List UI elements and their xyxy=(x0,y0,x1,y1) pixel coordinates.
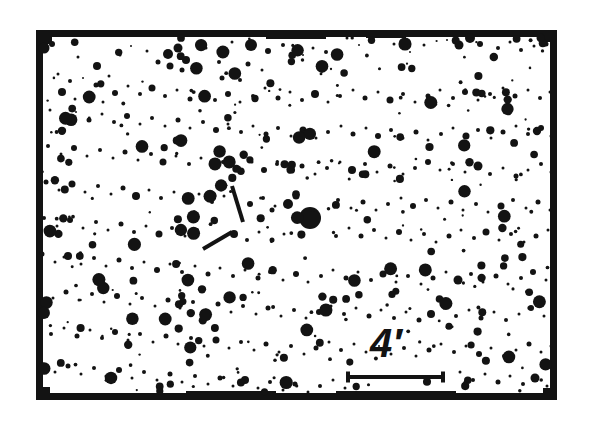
star-point xyxy=(462,249,466,253)
star-point xyxy=(420,283,423,286)
star-point xyxy=(342,295,350,303)
star-point xyxy=(291,44,294,47)
star-point xyxy=(46,144,50,148)
star-point xyxy=(237,379,245,387)
star-point xyxy=(189,89,193,93)
star-point xyxy=(395,281,398,284)
star-point xyxy=(327,207,331,211)
star-point xyxy=(501,254,509,262)
star-point xyxy=(172,260,180,268)
star-point xyxy=(173,191,176,194)
star-point xyxy=(211,324,219,332)
star-point xyxy=(280,315,283,318)
star-point xyxy=(425,159,431,165)
star-point xyxy=(439,89,442,92)
star-point xyxy=(65,159,72,166)
star-point xyxy=(227,123,230,126)
star-point xyxy=(424,198,428,202)
star-point xyxy=(547,229,550,232)
star-point xyxy=(415,355,418,358)
star-point xyxy=(77,56,80,59)
star-point xyxy=(149,85,156,92)
star-point xyxy=(494,274,499,279)
star-point xyxy=(465,158,473,166)
star-point xyxy=(274,205,277,208)
star-point xyxy=(406,63,408,65)
star-point xyxy=(318,384,322,388)
star-point xyxy=(217,60,221,64)
star-point xyxy=(438,319,441,322)
star-point xyxy=(546,385,549,388)
star-point xyxy=(514,174,519,179)
star-point xyxy=(62,255,65,258)
star-point xyxy=(463,56,466,59)
star-point xyxy=(105,378,109,382)
star-point xyxy=(295,384,298,387)
star-point xyxy=(424,96,437,109)
star-point xyxy=(92,273,105,286)
star-point xyxy=(471,378,475,382)
star-point xyxy=(534,234,539,239)
star-point xyxy=(314,335,317,338)
star-point xyxy=(204,190,217,203)
star-point xyxy=(509,41,512,44)
star-point xyxy=(331,48,344,61)
star-point xyxy=(75,111,77,113)
star-point xyxy=(82,77,84,79)
star-point xyxy=(251,95,258,102)
star-point xyxy=(103,301,106,304)
star-point xyxy=(138,92,142,96)
star-point xyxy=(115,49,122,56)
star-point xyxy=(519,276,523,280)
star-point xyxy=(66,364,71,369)
star-point xyxy=(187,210,200,223)
star-point xyxy=(192,385,195,388)
star-point xyxy=(213,337,220,344)
star-point xyxy=(58,127,66,135)
star-point xyxy=(549,91,552,94)
star-point xyxy=(57,359,65,367)
star-point xyxy=(175,134,188,147)
star-point xyxy=(129,363,133,367)
star-point xyxy=(213,127,219,133)
star-point xyxy=(353,383,360,390)
star-point xyxy=(524,118,526,120)
star-point xyxy=(474,162,483,171)
star-point xyxy=(427,348,432,353)
star-point xyxy=(203,345,206,348)
star-point xyxy=(248,38,251,41)
star-point xyxy=(427,248,435,256)
star-point xyxy=(139,123,142,126)
star-point xyxy=(328,357,332,361)
star-point xyxy=(474,202,478,206)
star-point xyxy=(400,197,403,200)
star-point xyxy=(415,158,418,161)
star-point xyxy=(479,184,481,186)
star-point xyxy=(276,160,279,163)
star-point xyxy=(255,313,258,316)
star-point xyxy=(452,127,455,130)
star-point xyxy=(49,324,52,327)
star-point xyxy=(143,261,146,264)
star-point xyxy=(146,50,149,53)
star-point xyxy=(137,159,140,162)
star-point xyxy=(245,238,249,242)
star-point xyxy=(71,265,74,268)
star-point xyxy=(245,39,257,51)
star-point xyxy=(451,325,454,328)
star-point xyxy=(281,160,289,168)
star-point xyxy=(228,67,241,80)
star-point xyxy=(527,89,530,92)
star-point xyxy=(164,125,167,128)
star-point xyxy=(312,47,315,50)
star-point xyxy=(550,345,553,348)
star-point xyxy=(257,214,265,222)
star-point xyxy=(165,50,168,53)
star-point xyxy=(271,305,275,309)
star-point xyxy=(320,72,323,75)
star-point xyxy=(334,204,337,207)
star-point xyxy=(440,343,443,346)
star-point xyxy=(129,303,132,306)
star-point xyxy=(527,306,531,310)
star-point xyxy=(58,189,61,192)
